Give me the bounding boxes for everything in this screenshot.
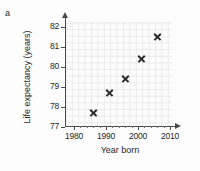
y-axis-line (65, 18, 66, 127)
y-tick-label-79: 79 (43, 81, 59, 91)
x-tick-minor-1982 (80, 126, 81, 128)
x-tick-label-1990: 1990 (91, 131, 121, 141)
y-tick-77 (61, 127, 65, 128)
data-point-3 (137, 54, 146, 63)
x-tick-minor-1988 (100, 126, 101, 128)
x-tick-minor-1984 (87, 126, 88, 128)
x-axis-title: Year born (66, 145, 174, 155)
data-point-2 (121, 74, 130, 83)
x-tick-label-2000: 2000 (123, 131, 153, 141)
y-axis-title: Life expectancy (years) (22, 24, 32, 130)
y-tick-82 (61, 27, 65, 28)
x-axis-arrow-icon (175, 123, 181, 129)
x-tick-minor-1998 (132, 126, 133, 128)
x-tick-minor-2004 (151, 126, 152, 128)
y-tick-label-81: 81 (43, 41, 59, 51)
y-tick-80 (61, 67, 65, 68)
y-tick-81 (61, 47, 65, 48)
x-tick-minor-1996 (125, 126, 126, 128)
x-tick-minor-2002 (144, 126, 145, 128)
x-tick-label-2010: 2010 (155, 131, 185, 141)
x-tick-minor-1986 (93, 126, 94, 128)
y-tick-label-80: 80 (43, 61, 59, 71)
x-tick-1990 (106, 126, 107, 130)
panel-label: a (5, 8, 10, 19)
y-axis-arrow-icon (62, 12, 68, 18)
data-point-1 (105, 88, 114, 97)
y-tick-label-82: 82 (43, 21, 59, 31)
y-tick-78 (61, 107, 65, 108)
x-tick-2010 (170, 126, 171, 130)
x-tick-label-1980: 1980 (59, 131, 89, 141)
data-point-0 (89, 108, 98, 117)
x-tick-2000 (138, 126, 139, 130)
y-tick-label-77: 77 (43, 121, 59, 131)
x-tick-minor-1994 (119, 126, 120, 128)
data-point-4 (153, 32, 162, 41)
x-tick-1980 (74, 126, 75, 130)
x-tick-minor-1992 (112, 126, 113, 128)
y-tick-label-78: 78 (43, 101, 59, 111)
y-tick-79 (61, 87, 65, 88)
x-tick-minor-2008 (164, 126, 165, 128)
x-tick-minor-2006 (157, 126, 158, 128)
x-axis-line (66, 126, 176, 127)
chart-figure: a 1980199020002010 777879808182 Year bor… (0, 0, 200, 171)
